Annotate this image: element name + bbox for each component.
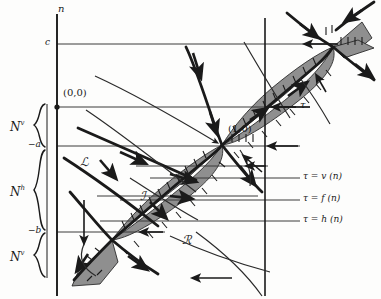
point-label-origin: (0,0) xyxy=(63,88,87,98)
brace-n-letter-upper: N xyxy=(10,120,21,134)
flow-upper-left-1 xyxy=(78,128,196,180)
curve-label-tau-h: τ = h (n) xyxy=(303,215,343,224)
tick-label-minus-a: −a xyxy=(28,140,41,149)
arrow-into-m xyxy=(246,158,262,172)
brace-n-sup-upper: v xyxy=(21,119,25,127)
brace-label-n-v-lower: Nv xyxy=(10,248,24,264)
shaded-invariant-regions xyxy=(72,22,374,286)
left-braces xyxy=(34,104,45,277)
shaded-wedge-lower-left xyxy=(72,240,118,286)
brace-n-sup-h: h xyxy=(21,184,26,192)
dot-origin xyxy=(54,104,59,109)
region-label-L: ℒ xyxy=(80,156,89,168)
thin-curve-2 xyxy=(86,110,196,192)
stable-branch-ll-left xyxy=(70,192,112,240)
brace-n-v-lower-path xyxy=(34,233,45,277)
diagram-canvas: n c −a −b (0,0) (1,0) τ Nv Nh Nv ℒ ℐ ℛ τ… xyxy=(0,0,381,299)
axis-label-n: n xyxy=(58,4,64,14)
tick-label-c: c xyxy=(45,38,50,47)
axis-label-tau: τ xyxy=(300,100,306,110)
brace-n-letter-h: N xyxy=(10,185,21,199)
point-label-unit: (1,0) xyxy=(228,124,252,134)
unstable-branch-ll-right xyxy=(112,240,158,274)
brace-label-n-h: Nh xyxy=(10,183,25,199)
thin-curve-1 xyxy=(95,76,216,142)
tick-label-minus-b: −b xyxy=(28,226,41,235)
curve-label-tau-f: τ = f (n) xyxy=(303,194,340,203)
equilibrium-dots xyxy=(54,104,59,109)
curve-label-tau-v: τ = v (n) xyxy=(303,172,342,181)
region-label-I: ℐ xyxy=(140,190,146,202)
stable-branch-m-up xyxy=(186,47,222,145)
brace-n-sup-lower: v xyxy=(21,249,25,257)
brace-n-h-path xyxy=(34,150,45,230)
phase-portrait-svg xyxy=(0,0,381,299)
brace-label-n-v-upper: Nv xyxy=(10,118,24,134)
brace-n-letter-lower: N xyxy=(10,250,21,264)
region-label-R: ℛ xyxy=(182,234,192,246)
thin-curve-7 xyxy=(196,232,262,296)
arrow-into-ur xyxy=(318,78,326,92)
